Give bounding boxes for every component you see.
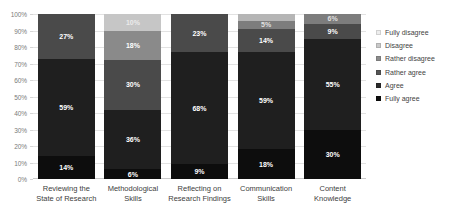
- legend-swatch-icon: [376, 83, 381, 88]
- x-axis-category-label: CommunicationSkills: [233, 184, 300, 204]
- bar-segment[interactable]: 5%: [238, 21, 295, 29]
- legend-swatch-icon: [376, 43, 381, 48]
- y-axis-tick-label: 40%: [14, 110, 27, 117]
- plot-area: 0%10%20%30%40%50%60%70%80%90%100% 27%59%…: [0, 0, 372, 223]
- legend-item-label: Agree: [385, 82, 404, 89]
- legend-item-label: Fully disagree: [385, 29, 429, 36]
- legend-item[interactable]: Agree: [372, 79, 475, 92]
- legend-item-label: Fully agree: [385, 95, 420, 102]
- y-axis-tick-label: 20%: [14, 143, 27, 150]
- bar-segment[interactable]: 14%: [38, 156, 95, 179]
- bar-column[interactable]: 6%9%55%30%: [304, 14, 361, 179]
- bar-segment[interactable]: 30%: [104, 60, 161, 110]
- bar-segment[interactable]: 10%: [104, 14, 161, 31]
- bar-segment-label: 30%: [326, 151, 340, 158]
- y-axis-tick-label: 70%: [14, 60, 27, 67]
- bar-segment[interactable]: 6%: [304, 14, 361, 24]
- bar-column[interactable]: 23%68%9%: [171, 14, 228, 179]
- bar-segment[interactable]: 59%: [38, 59, 95, 156]
- bar-segment-label: 14%: [59, 164, 73, 171]
- bar-segment[interactable]: 18%: [238, 149, 295, 179]
- legend-item-label: Disagree: [385, 42, 413, 49]
- bar-segment-label: 36%: [126, 136, 140, 143]
- bar-segment[interactable]: 59%: [238, 52, 295, 149]
- legend-item-label: Rather disagree: [385, 55, 435, 62]
- bar-segment-label: 6%: [328, 15, 338, 22]
- bar-segment-label: 14%: [259, 37, 273, 44]
- bar-segment[interactable]: 14%: [238, 29, 295, 52]
- bar-segment-label: 10%: [126, 19, 140, 26]
- y-axis-tick-label: 90%: [14, 27, 27, 34]
- x-axis-labels: Reviewing theState of ResearchMethodolog…: [33, 184, 366, 204]
- bar-segment-label: 23%: [192, 30, 206, 37]
- bar-segment[interactable]: 23%: [171, 14, 228, 52]
- bar-segment[interactable]: 55%: [304, 39, 361, 130]
- legend-swatch-icon: [376, 56, 381, 61]
- bar-segment-label: 18%: [126, 42, 140, 49]
- bar-segment[interactable]: [238, 14, 295, 21]
- bar-segment[interactable]: 36%: [104, 110, 161, 169]
- bar-segment[interactable]: 6%: [104, 169, 161, 179]
- bar-segment[interactable]: 30%: [304, 130, 361, 180]
- bar-segment[interactable]: 68%: [171, 52, 228, 164]
- legend-item[interactable]: Rather disagree: [372, 52, 475, 65]
- bar-segment-label: 5%: [261, 21, 271, 28]
- y-axis-tick-label: 10%: [14, 159, 27, 166]
- bar-segment-label: 55%: [326, 81, 340, 88]
- y-axis-tick-label: 50%: [14, 93, 27, 100]
- bar-segment[interactable]: 9%: [304, 24, 361, 39]
- bar-segment-label: 30%: [126, 81, 140, 88]
- legend-swatch-icon: [376, 70, 381, 75]
- bar-segment[interactable]: 9%: [171, 164, 228, 179]
- y-axis: 0%10%20%30%40%50%60%70%80%90%100%: [0, 14, 30, 179]
- bar-column[interactable]: 5%14%59%18%: [238, 14, 295, 179]
- legend-item[interactable]: Disagree: [372, 39, 475, 52]
- legend-swatch-icon: [376, 96, 381, 101]
- bar-segment-label: 9%: [328, 28, 338, 35]
- bar-segment-label: 59%: [59, 104, 73, 111]
- legend-item[interactable]: Fully agree: [372, 92, 475, 105]
- bar-segment-label: 68%: [192, 105, 206, 112]
- bar-column[interactable]: 10%18%30%36%6%: [104, 14, 161, 179]
- bar-segment-label: 9%: [194, 168, 204, 175]
- bar-segment[interactable]: 27%: [38, 14, 95, 59]
- legend-item-label: Rather agree: [385, 69, 426, 76]
- legend-item[interactable]: Fully disagree: [372, 26, 475, 39]
- bar-segment-label: 6%: [128, 171, 138, 178]
- y-axis-tickmark: [30, 179, 33, 180]
- bar-segment[interactable]: 18%: [104, 31, 161, 61]
- legend-item[interactable]: Rather agree: [372, 66, 475, 79]
- legend-swatch-icon: [376, 30, 381, 35]
- y-axis-tick-label: 100%: [11, 11, 27, 18]
- stacked-bar-chart: 0%10%20%30%40%50%60%70%80%90%100% 27%59%…: [0, 0, 475, 223]
- y-axis-tick-label: 0%: [18, 176, 27, 183]
- legend: Fully disagreeDisagreeRather disagreeRat…: [372, 0, 475, 223]
- bar-segment-label: 18%: [259, 161, 273, 168]
- x-axis-category-label: ContentKnowledge: [299, 184, 366, 204]
- x-axis-category-label: MethodologicalSkills: [100, 184, 167, 204]
- y-axis-tick-label: 80%: [14, 44, 27, 51]
- y-axis-tick-label: 60%: [14, 77, 27, 84]
- bar-segment-label: 27%: [59, 33, 73, 40]
- bar-column[interactable]: 27%59%14%: [38, 14, 95, 179]
- x-axis-category-label: Reviewing theState of Research: [33, 184, 100, 204]
- x-axis-category-label: Reflecting onResearch Findings: [166, 184, 233, 204]
- y-axis-tick-label: 30%: [14, 126, 27, 133]
- bar-group: 27%59%14%10%18%30%36%6%23%68%9%5%14%59%1…: [33, 14, 366, 179]
- bar-segment-label: 59%: [259, 97, 273, 104]
